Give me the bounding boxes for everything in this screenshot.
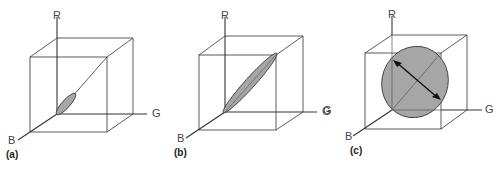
rgb-cube-diagram-a — [0, 0, 166, 171]
rgb-cube-diagram-c — [320, 0, 500, 171]
axis-label-g: G — [485, 103, 494, 115]
axis-label-b: B — [8, 134, 15, 146]
panel-label-c: (c) — [350, 145, 362, 156]
panel-b: R G B (b) — [160, 0, 326, 171]
panel-c: R G B (c) — [320, 0, 500, 171]
axis-label-r: R — [53, 9, 61, 21]
axis-label-b: B — [345, 130, 352, 142]
axis-label-r: R — [221, 9, 229, 21]
panel-a: R G B (a) — [0, 0, 166, 171]
axis-label-r: R — [388, 8, 396, 20]
rgb-cube-diagram-b — [160, 0, 330, 171]
axis-label-b: B — [177, 132, 184, 144]
panel-label-a: (a) — [6, 149, 18, 160]
panel-label-b: (b) — [174, 147, 187, 158]
